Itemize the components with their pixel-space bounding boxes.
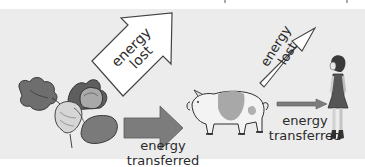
energy-transferred-label-1: energy transferred [122,138,204,167]
food-chain-diagram: energy lost energy lost energy transferr… [0,0,365,167]
pig-icon [187,90,268,134]
energy-transferred-2-line1: energy [264,113,346,128]
energy-transferred-1-line2: transferred [122,153,204,167]
cropped-text-marks [225,0,347,3]
energy-transferred-label-2: energy transferred [264,113,346,143]
energy-transferred-1-line1: energy [122,138,204,153]
vegetables-icon [19,78,117,149]
energy-transferred-arrow-2 [277,99,327,109]
energy-transferred-2-line2: transferred [264,128,346,143]
